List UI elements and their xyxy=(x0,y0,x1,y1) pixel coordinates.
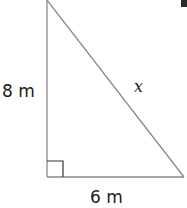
hypotenuse xyxy=(47,0,184,177)
horizontal-leg-label: 6 m xyxy=(90,189,123,206)
right-angle-marker xyxy=(47,161,63,177)
hypotenuse-label: x xyxy=(134,79,143,95)
cropped-glyph-fragment xyxy=(181,0,187,7)
triangle-figure xyxy=(0,0,187,208)
vertical-leg-label: 8 m xyxy=(2,83,35,100)
